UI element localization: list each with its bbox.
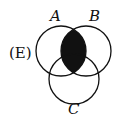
label-c: C: [68, 100, 80, 117]
option-label: (E): [9, 44, 32, 62]
label-a: A: [48, 7, 61, 25]
venn-diagram: (E) A B C: [0, 0, 116, 117]
label-b: B: [88, 7, 100, 25]
